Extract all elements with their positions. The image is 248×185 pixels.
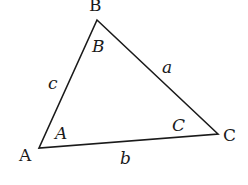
triangle-diagram: B A C B A C c a b xyxy=(0,0,248,185)
angle-label-a: A xyxy=(53,123,67,143)
side-label-a: a xyxy=(162,57,172,77)
side-label-b: b xyxy=(120,148,131,168)
vertex-label-b: B xyxy=(89,0,102,15)
side-label-c: c xyxy=(48,73,58,93)
angle-label-c: C xyxy=(172,115,185,135)
vertex-label-a: A xyxy=(18,145,32,165)
vertex-label-c: C xyxy=(223,125,236,145)
angle-label-b: B xyxy=(91,36,105,56)
